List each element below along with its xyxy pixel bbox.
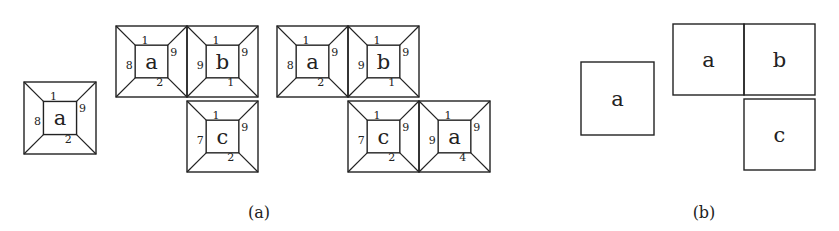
corner-diagonal (24, 82, 43, 101)
corner-diagonal (419, 153, 438, 172)
edge-label-top: 1 (141, 34, 148, 47)
edge-label-bottom: 1 (388, 76, 395, 89)
edge-label-bottom: 2 (317, 76, 324, 89)
edge-label-right: 9 (402, 121, 409, 134)
tile-letter: b (377, 50, 390, 74)
edge-label-bottom: 2 (227, 151, 234, 164)
edge-label-top: 1 (212, 109, 219, 122)
edge-label-right: 9 (79, 102, 86, 115)
caption-a: (a) (248, 203, 270, 222)
square-b: b (744, 24, 815, 95)
edge-label-left: 8 (126, 59, 133, 72)
corner-diagonal (187, 78, 206, 97)
corner-diagonal (400, 26, 419, 45)
panel-b-plain-squares: aabc (581, 24, 815, 170)
edge-label-left: 9 (197, 59, 204, 72)
edge-label-top: 1 (302, 34, 309, 47)
corner-diagonal (400, 78, 419, 97)
corner-diagonal (239, 101, 258, 120)
edge-label-bottom: 4 (459, 151, 466, 164)
edge-label-left: 8 (34, 115, 41, 128)
tile-letter: b (216, 50, 229, 74)
square-a: a (673, 24, 744, 95)
edge-label-right: 9 (402, 46, 409, 59)
tile-a: a1928 (24, 82, 96, 154)
edge-label-left: 8 (287, 59, 294, 72)
edge-label-bottom: 1 (227, 76, 234, 89)
corner-diagonal (329, 26, 348, 45)
edge-label-top: 1 (444, 109, 451, 122)
caption-b: (b) (693, 203, 716, 222)
corner-diagonal (168, 26, 187, 45)
tile-c: c1927 (187, 101, 258, 172)
corner-diagonal (239, 26, 258, 45)
tile-letter: a (306, 50, 319, 74)
edge-label-top: 1 (373, 109, 380, 122)
corner-diagonal (239, 153, 258, 172)
tile-letter: a (448, 125, 461, 149)
corner-diagonal (187, 26, 206, 45)
tile-a: a1949 (419, 101, 490, 172)
square-letter: b (773, 48, 786, 72)
square-letter: a (702, 48, 715, 72)
tile-letter: a (145, 50, 158, 74)
corner-diagonal (187, 153, 206, 172)
tile-letter: c (217, 125, 229, 149)
edge-label-right: 9 (473, 121, 480, 134)
edge-label-bottom: 2 (388, 151, 395, 164)
corner-diagonal (116, 78, 135, 97)
tile-b: b1919 (348, 26, 419, 97)
corner-diagonal (348, 78, 367, 97)
edge-label-top: 1 (373, 34, 380, 47)
corner-diagonal (116, 26, 135, 45)
tile-c: c1927 (348, 101, 419, 172)
tile-a: a1928 (116, 26, 187, 97)
edge-label-left: 7 (358, 134, 365, 147)
corner-diagonal (348, 26, 367, 45)
corner-diagonal (77, 82, 96, 101)
corner-diagonal (77, 135, 96, 154)
tile-a: a1928 (277, 26, 348, 97)
panel-a-edge-labeled-tiles: a1928a1928b1919c1927a1928b1919c1927a1949 (24, 26, 490, 172)
edge-label-right: 9 (241, 46, 248, 59)
corner-diagonal (168, 78, 187, 97)
edge-label-top: 1 (50, 90, 57, 103)
edge-label-right: 9 (241, 121, 248, 134)
square-a: a (581, 62, 654, 135)
corner-diagonal (329, 78, 348, 97)
corner-diagonal (348, 153, 367, 172)
edge-label-left: 9 (429, 134, 436, 147)
corner-diagonal (400, 153, 419, 172)
square-letter: a (611, 87, 624, 111)
edge-label-right: 9 (331, 46, 338, 59)
edge-label-right: 9 (170, 46, 177, 59)
corner-diagonal (277, 78, 296, 97)
corner-diagonal (239, 78, 258, 97)
edge-label-top: 1 (212, 34, 219, 47)
figure-canvas: a1928a1928b1919c1927a1928b1919c1927a1949… (0, 0, 839, 231)
corner-diagonal (24, 135, 43, 154)
tile-letter: a (54, 106, 67, 130)
edge-label-bottom: 2 (65, 133, 72, 146)
corner-diagonal (277, 26, 296, 45)
corner-diagonal (400, 101, 419, 120)
corner-diagonal (419, 101, 438, 120)
edge-label-bottom: 2 (156, 76, 163, 89)
corner-diagonal (471, 101, 490, 120)
square-letter: c (774, 123, 786, 147)
corner-diagonal (348, 101, 367, 120)
tile-letter: c (378, 125, 390, 149)
tile-b: b1919 (187, 26, 258, 97)
square-c: c (744, 99, 815, 170)
corner-diagonal (187, 101, 206, 120)
edge-label-left: 9 (358, 59, 365, 72)
corner-diagonal (471, 153, 490, 172)
edge-label-left: 7 (197, 134, 204, 147)
